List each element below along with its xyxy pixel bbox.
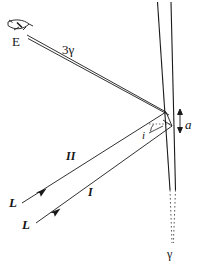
label-ray-I: I (88, 186, 93, 198)
dotted-line-right (173, 190, 175, 243)
label-source-lower-L: L (22, 218, 30, 231)
angle-arc-i (151, 125, 154, 132)
eye-icon-tail (29, 24, 33, 26)
label-angle-of-incidence-i: i (142, 130, 145, 141)
eye-icon (8, 20, 33, 30)
figure-canvas: { "figure": { "title": "thin-film interf… (0, 0, 202, 269)
reflected-ray-front (27, 35, 166, 112)
eye-icon-pupil (17, 23, 22, 28)
label-transmitted-gamma: γ (167, 248, 172, 260)
incident-ray-I (36, 126, 172, 223)
incident-rays (22, 112, 172, 223)
arrowhead-icon-ray-II (36, 189, 47, 197)
film-dotted-continuation (170, 190, 176, 243)
label-eye-E: E (12, 35, 20, 48)
label-reflected-rays-3gamma: 3γ (62, 43, 74, 56)
film-back-surface (171, 2, 176, 190)
reflected-ray-back (28, 39, 169, 116)
film-front-surface (158, 2, 171, 190)
double-arrow-icon-thickness (178, 109, 183, 133)
incident-ray-II (22, 112, 166, 203)
thickness-arrow-head-up (178, 109, 183, 115)
thickness-arrow-head-down (178, 128, 183, 134)
angle-of-incidence-marker (149, 124, 170, 133)
label-film-thickness-a: a (185, 118, 192, 131)
label-ray-II: II (66, 150, 75, 162)
dotted-line-left (170, 190, 172, 243)
label-source-upper-L: L (9, 196, 17, 209)
optics-ray-diagram (0, 0, 202, 269)
reflected-rays (27, 35, 169, 115)
incident-ray-arrowheads (36, 189, 61, 217)
film-boundaries (158, 2, 176, 190)
